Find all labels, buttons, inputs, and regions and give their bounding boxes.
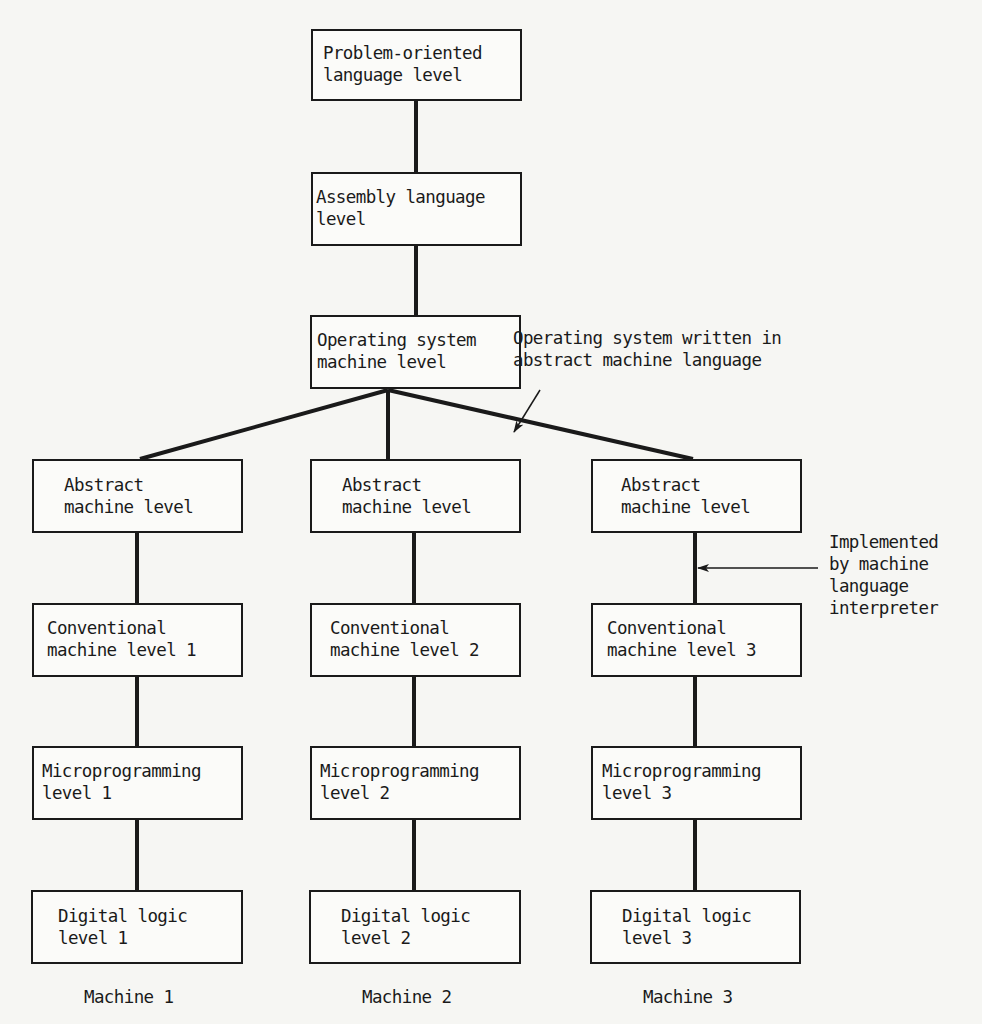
box-line1: Assembly language (316, 186, 485, 208)
box-line2: language level (323, 64, 462, 86)
box-conventional-machine-level-3: Conventional machine level 3 (591, 603, 802, 677)
box-line2: machine level (64, 496, 193, 518)
box-conventional-machine-level-2: Conventional machine level 2 (310, 603, 521, 677)
box-line2: machine level (342, 496, 471, 518)
annotation-line2: abstract machine language (513, 349, 761, 371)
box-assembly-language-level: Assembly language level (311, 172, 522, 246)
box-microprogramming-level-1: Microprogramming level 1 (32, 746, 243, 820)
edge-os-abstract-1 (140, 390, 388, 459)
box-line1: Problem-oriented (323, 42, 482, 64)
box-line1: Abstract (64, 474, 144, 496)
box-line1: Abstract (621, 474, 701, 496)
machine-label-3: Machine 3 (643, 986, 732, 1008)
box-line2: level 2 (341, 927, 411, 949)
box-abstract-machine-level-1: Abstract machine level (32, 459, 243, 533)
box-digital-logic-level-2: Digital logic level 2 (309, 890, 521, 964)
machine-label-1: Machine 1 (84, 986, 173, 1008)
box-line2: level 3 (602, 782, 672, 804)
box-line2: level 3 (622, 927, 692, 949)
box-line2: machine level (621, 496, 750, 518)
box-abstract-machine-level-3: Abstract machine level (591, 459, 802, 533)
box-line2: level 2 (320, 782, 390, 804)
box-line1: Microprogramming (320, 760, 479, 782)
box-line2: machine level (317, 351, 446, 373)
box-microprogramming-level-3: Microprogramming level 3 (591, 746, 802, 820)
box-abstract-machine-level-2: Abstract machine level (310, 459, 521, 533)
machine-label-2: Machine 2 (362, 986, 451, 1008)
box-line1: Conventional (330, 617, 449, 639)
box-line1: Digital logic (58, 905, 187, 927)
box-operating-system-machine-level: Operating system machine level (310, 315, 521, 389)
box-conventional-machine-level-1: Conventional machine level 1 (32, 603, 243, 677)
box-line1: Conventional (607, 617, 726, 639)
box-line1: Conventional (47, 617, 166, 639)
box-line2: level (316, 208, 366, 230)
box-microprogramming-level-2: Microprogramming level 2 (310, 746, 521, 820)
box-digital-logic-level-3: Digital logic level 3 (590, 890, 801, 964)
box-line1: Digital logic (341, 905, 470, 927)
box-line2: machine level 1 (47, 639, 196, 661)
edge-os-abstract-3 (388, 390, 693, 459)
box-line2: level 1 (42, 782, 112, 804)
box-line1: Microprogramming (602, 760, 761, 782)
box-line1: Microprogramming (42, 760, 201, 782)
annotation-line1: Implemented (829, 531, 938, 553)
annotation-line2: by machine (829, 553, 928, 575)
box-line2: level 1 (58, 927, 128, 949)
annotation-line3: language (829, 575, 909, 597)
box-digital-logic-level-1: Digital logic level 1 (31, 890, 243, 964)
box-line1: Operating system (317, 329, 476, 351)
annotation-line4: interpreter (829, 597, 938, 619)
box-line2: machine level 3 (607, 639, 756, 661)
box-line1: Digital logic (622, 905, 751, 927)
arrow-os-written (514, 390, 540, 432)
box-problem-oriented-language-level: Problem-oriented language level (311, 29, 522, 101)
annotation-line1: Operating system written in (513, 327, 781, 349)
box-line1: Abstract (342, 474, 422, 496)
box-line2: machine level 2 (330, 639, 479, 661)
